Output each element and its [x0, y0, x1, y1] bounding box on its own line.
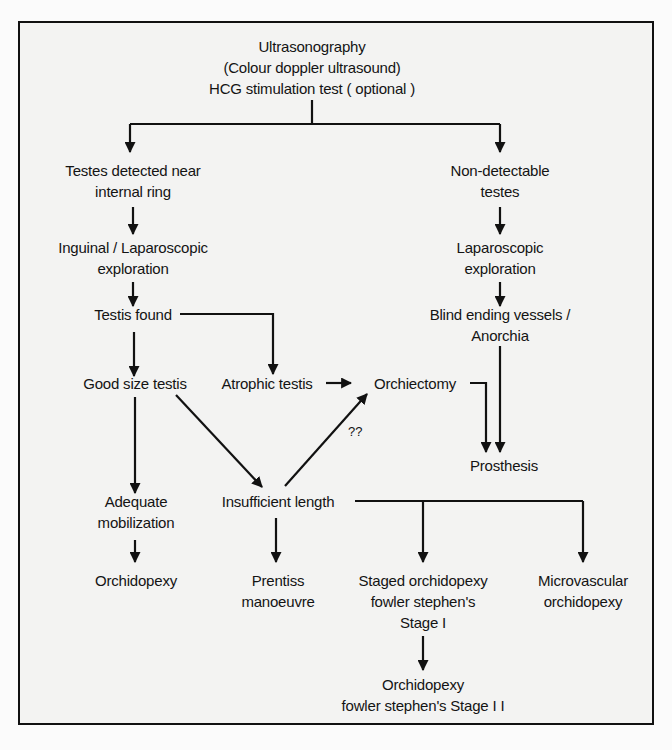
node-good-size-testis: Good size testis [83, 373, 187, 394]
node-line: Prentiss [241, 570, 314, 591]
node-line: mobilization [98, 512, 175, 533]
node-line: Prosthesis [470, 455, 538, 476]
node-line: Orchiectomy [374, 373, 456, 394]
node-orchidopexy-stage-2: Orchidopexy fowler stephen's Stage I I [342, 674, 505, 716]
node-line: Good size testis [83, 373, 187, 394]
node-line: Microvascular [538, 570, 628, 591]
node-inguinal-exploration: Inguinal / Laparoscopic exploration [58, 237, 208, 279]
node-line: fowler stephen's [359, 591, 488, 612]
node-line: Orchidopexy [342, 674, 505, 695]
node-testes-detected: Testes detected near internal ring [65, 160, 200, 202]
node-laparoscopic-exploration: Laparoscopic exploration [457, 237, 544, 279]
node-root: Ultrasonography (Colour doppler ultrasou… [209, 36, 415, 99]
node-line: Testis found [94, 304, 172, 325]
node-prentiss-manoeuvre: Prentiss manoeuvre [241, 570, 314, 612]
node-line: internal ring [65, 181, 200, 202]
node-adequate-mobilization: Adequate mobilization [98, 491, 175, 533]
node-root-line-2: (Colour doppler ultrasound) [209, 57, 415, 78]
node-line: Adequate [98, 491, 175, 512]
node-line: Anorchia [430, 325, 571, 346]
node-line: Staged orchidopexy [359, 570, 488, 591]
node-line: Stage I [359, 612, 488, 633]
node-line: Blind ending vessels / [430, 304, 571, 325]
node-microvascular-orchidopexy: Microvascular orchidopexy [538, 570, 628, 612]
node-atrophic-testis: Atrophic testis [221, 373, 312, 394]
node-line: fowler stephen's Stage I I [342, 695, 505, 716]
node-insufficient-length: Insufficient length [222, 491, 335, 512]
node-line: Testes detected near [65, 160, 200, 181]
node-line: Laparoscopic [457, 237, 544, 258]
node-root-line-3: HCG stimulation test ( optional ) [209, 78, 415, 99]
node-testis-found: Testis found [94, 304, 172, 325]
node-line: exploration [457, 258, 544, 279]
node-line: manoeuvre [241, 591, 314, 612]
node-line: Atrophic testis [221, 373, 312, 394]
node-orchidopexy: Orchidopexy [95, 570, 177, 591]
node-prosthesis: Prosthesis [470, 455, 538, 476]
node-line: Non-detectable [451, 160, 550, 181]
node-staged-orchidopexy: Staged orchidopexy fowler stephen's Stag… [359, 570, 488, 633]
node-non-detectable: Non-detectable testes [451, 160, 550, 202]
node-line: orchidopexy [538, 591, 628, 612]
node-line: Insufficient length [222, 491, 335, 512]
node-root-line-1: Ultrasonography [209, 36, 415, 57]
edge-label-question: ?? [348, 424, 362, 439]
node-blind-ending: Blind ending vessels / Anorchia [430, 304, 571, 346]
node-line: testes [451, 181, 550, 202]
node-orchiectomy: Orchiectomy [374, 373, 456, 394]
node-line: Orchidopexy [95, 570, 177, 591]
node-line: Inguinal / Laparoscopic [58, 237, 208, 258]
node-line: exploration [58, 258, 208, 279]
